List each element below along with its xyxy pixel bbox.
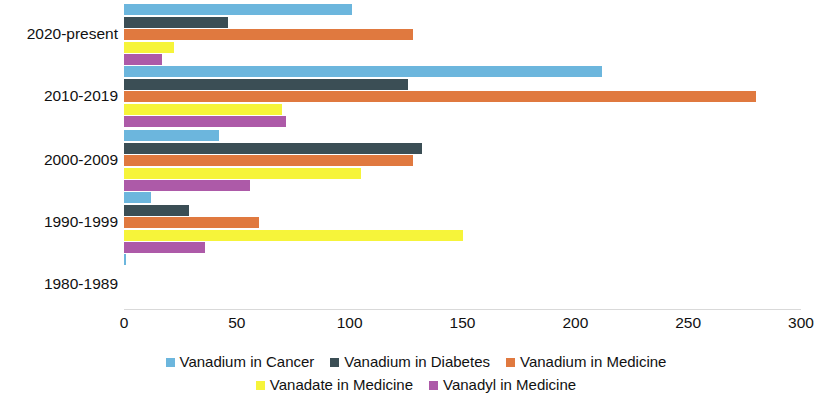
x-tick-label: 300 — [788, 314, 814, 332]
x-tick-label: 200 — [562, 314, 588, 332]
bar — [124, 17, 228, 28]
x-tick-label: 0 — [120, 314, 129, 332]
bar-group — [124, 66, 824, 129]
bar-group — [124, 130, 824, 193]
legend-swatch-icon — [330, 358, 339, 367]
x-tick-label: 150 — [450, 314, 476, 332]
category-label: 1990-1999 — [4, 213, 118, 231]
legend-swatch-icon — [429, 381, 438, 390]
legend-label: Vanadate in Medicine — [270, 375, 413, 395]
bar-group — [124, 192, 824, 255]
bar — [124, 104, 282, 115]
bar — [124, 42, 174, 53]
chart-legend: Vanadium in CancerVanadium in DiabetesVa… — [0, 352, 832, 395]
bar — [124, 205, 189, 216]
category-label: 1980-1989 — [4, 275, 118, 293]
bar — [124, 54, 162, 65]
legend-item[interactable]: Vanadium in Cancer — [166, 352, 315, 372]
legend-swatch-icon — [166, 358, 175, 367]
bar — [124, 143, 422, 154]
bar — [124, 4, 352, 15]
bar — [124, 192, 151, 203]
category-axis-labels: 2020-present2010-20192000-20091990-19991… — [0, 0, 118, 310]
bar — [124, 242, 205, 253]
x-axis-line — [124, 309, 801, 310]
legend-label: Vanadium in Medicine — [520, 352, 666, 372]
legend-item[interactable]: Vanadium in Medicine — [506, 352, 666, 372]
category-label: 2000-2009 — [4, 151, 118, 169]
bar — [124, 155, 413, 166]
legend-label: Vanadium in Diabetes — [344, 352, 490, 372]
plot-area — [124, 0, 824, 310]
bar — [124, 29, 413, 40]
bar — [124, 66, 602, 77]
legend-item[interactable]: Vanadium in Diabetes — [330, 352, 490, 372]
category-label: 2010-2019 — [4, 87, 118, 105]
bar — [124, 230, 463, 241]
legend-swatch-icon — [506, 358, 515, 367]
legend-item[interactable]: Vanadyl in Medicine — [429, 375, 576, 395]
legend-label: Vanadyl in Medicine — [443, 375, 576, 395]
horizontal-bar-chart: 2020-present2010-20192000-20091990-19991… — [0, 0, 832, 401]
bar — [124, 180, 250, 191]
legend-label: Vanadium in Cancer — [180, 352, 315, 372]
bar — [124, 254, 126, 265]
bar — [124, 79, 408, 90]
legend-swatch-icon — [256, 381, 265, 390]
x-tick-label: 50 — [228, 314, 245, 332]
legend-item[interactable]: Vanadate in Medicine — [256, 375, 413, 395]
x-tick-label: 100 — [337, 314, 363, 332]
bar — [124, 168, 361, 179]
x-tick-label: 250 — [675, 314, 701, 332]
bar-group — [124, 4, 824, 67]
bar — [124, 217, 259, 228]
bar — [124, 116, 286, 127]
category-label: 2020-present — [4, 25, 118, 43]
bar — [124, 130, 219, 141]
bar-group — [124, 254, 824, 317]
bar — [124, 91, 756, 102]
